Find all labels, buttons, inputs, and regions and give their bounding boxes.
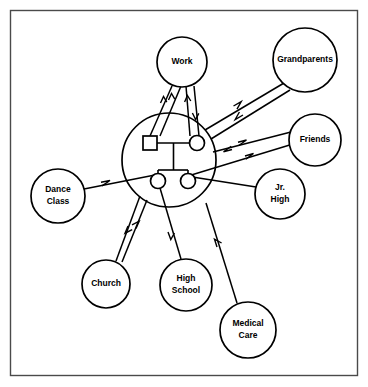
node-medical-care-label-line1: Medical bbox=[232, 318, 263, 328]
household-circle bbox=[122, 113, 216, 207]
node-dance-class[interactable]: Dance Class bbox=[31, 169, 85, 223]
connection-jr-high-to-family bbox=[186, 176, 256, 187]
node-medical-care[interactable]: Medical Care bbox=[220, 302, 276, 358]
node-high-school-label-line1: High bbox=[177, 273, 196, 283]
household-group bbox=[122, 113, 216, 207]
node-friends[interactable]: Friends bbox=[289, 114, 341, 166]
node-jr-high[interactable]: Jr. High bbox=[255, 169, 305, 219]
member-father-square bbox=[143, 136, 157, 150]
member-child-1-circle bbox=[151, 174, 166, 189]
connection-dance-class-to-family bbox=[84, 174, 160, 189]
node-work[interactable]: Work bbox=[157, 37, 207, 87]
connection-mother-to-work bbox=[185, 86, 199, 136]
node-medical-care-label-line2: Care bbox=[239, 330, 258, 340]
ecomap-canvas: Work Grandparents Friends Jr. High Dance… bbox=[0, 0, 368, 387]
node-high-school[interactable]: High School bbox=[160, 259, 212, 311]
node-high-school-label-line2: School bbox=[172, 285, 200, 295]
node-jr-high-label-line2: High bbox=[271, 194, 290, 204]
node-church[interactable]: Church bbox=[82, 260, 130, 308]
ecomap-diagram: Work Grandparents Friends Jr. High Dance… bbox=[0, 0, 368, 387]
node-dance-class-label-line2: Class bbox=[47, 196, 70, 206]
node-work-label: Work bbox=[171, 56, 192, 66]
connection-family-to-church bbox=[116, 196, 147, 262]
node-grandparents-label: Grandparents bbox=[277, 54, 333, 64]
member-mother-circle bbox=[190, 136, 205, 151]
connection-father-to-work bbox=[150, 86, 181, 136]
node-jr-high-label-line1: Jr. bbox=[275, 182, 285, 192]
node-dance-class-label-line1: Dance bbox=[45, 184, 71, 194]
node-church-label: Church bbox=[91, 278, 121, 288]
connection-family-to-friends-upper bbox=[213, 132, 291, 152]
member-child-2-circle bbox=[181, 174, 196, 189]
connection-child-to-high-school bbox=[160, 188, 181, 259]
node-friends-label: Friends bbox=[300, 134, 331, 144]
node-grandparents[interactable]: Grandparents bbox=[273, 28, 337, 92]
connection-family-to-grandparents bbox=[205, 83, 290, 139]
